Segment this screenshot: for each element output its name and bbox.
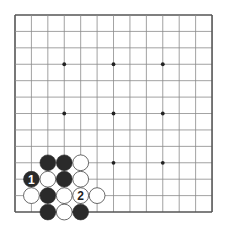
black-stone[interactable] — [73, 204, 89, 220]
white-stone[interactable] — [56, 188, 72, 204]
black-stone[interactable] — [40, 155, 56, 171]
white-stone[interactable] — [56, 204, 72, 220]
star-point-icon — [62, 62, 66, 66]
black-stone-circle-icon — [56, 155, 72, 171]
black-stone[interactable] — [56, 171, 72, 187]
black-stone-circle-icon — [40, 155, 56, 171]
black-stone[interactable]: 1 — [24, 171, 40, 187]
move-number-label: 1 — [28, 173, 35, 187]
white-stone-circle-icon — [73, 155, 89, 171]
star-point-icon — [161, 112, 165, 116]
go-board[interactable]: 12 — [0, 0, 226, 232]
black-stone-circle-icon — [56, 171, 72, 187]
star-point-icon — [161, 62, 165, 66]
white-stone[interactable] — [24, 188, 40, 204]
black-stone-circle-icon — [40, 188, 56, 204]
white-stone-circle-icon — [56, 188, 72, 204]
white-stone-circle-icon — [89, 188, 105, 204]
star-point-icon — [62, 112, 66, 116]
white-stone[interactable] — [40, 171, 56, 187]
star-point-icon — [112, 161, 116, 165]
move-number-label: 2 — [77, 189, 84, 203]
white-stone[interactable] — [73, 155, 89, 171]
star-point-icon — [161, 161, 165, 165]
white-stone-circle-icon — [56, 204, 72, 220]
black-stone-circle-icon — [40, 204, 56, 220]
star-point-icon — [112, 112, 116, 116]
white-stone[interactable]: 2 — [73, 188, 89, 204]
white-stone[interactable] — [89, 188, 105, 204]
stones-layer: 12 — [24, 155, 105, 220]
black-stone-circle-icon — [73, 204, 89, 220]
star-point-icon — [112, 62, 116, 66]
black-stone[interactable] — [40, 204, 56, 220]
black-stone[interactable] — [40, 188, 56, 204]
black-stone[interactable] — [56, 155, 72, 171]
white-stone-circle-icon — [24, 188, 40, 204]
white-stone-circle-icon — [73, 171, 89, 187]
white-stone[interactable] — [73, 171, 89, 187]
white-stone-circle-icon — [40, 171, 56, 187]
